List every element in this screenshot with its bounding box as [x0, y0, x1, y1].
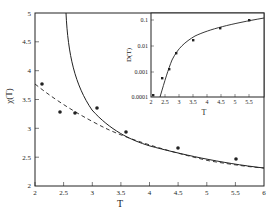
- chart: 2 2.5 3 3.5 4 4.5 5 5.5 6 T 2 2.5 3 3.5 …: [0, 0, 276, 212]
- svg-text:3: 3: [178, 99, 181, 105]
- svg-text:6: 6: [262, 189, 266, 197]
- svg-text:5: 5: [234, 99, 237, 105]
- svg-text:5: 5: [28, 10, 32, 18]
- svg-text:3.5: 3.5: [22, 96, 31, 104]
- svg-text:4.5: 4.5: [217, 99, 225, 105]
- svg-text:4: 4: [206, 99, 209, 105]
- svg-text:5: 5: [205, 189, 209, 197]
- inset-x-axis-label: T: [202, 108, 207, 117]
- svg-text:3: 3: [91, 189, 95, 197]
- inset-plot-frame: [151, 13, 264, 97]
- svg-text:4: 4: [148, 189, 152, 197]
- svg-text:0.01: 0.01: [138, 43, 149, 49]
- svg-text:0.0001: 0.0001: [132, 94, 149, 100]
- svg-text:5.5: 5.5: [245, 99, 253, 105]
- main-x-tick-labels: 2 2.5 3 3.5 4 4.5 5 5.5 6: [33, 189, 266, 197]
- main-x-ticks: [35, 182, 235, 186]
- svg-text:2: 2: [28, 182, 32, 190]
- inset-y-axis-label: D(T): [125, 47, 133, 62]
- svg-text:5.5: 5.5: [231, 189, 240, 197]
- main-x-axis-label: T: [117, 198, 123, 209]
- svg-text:2: 2: [33, 189, 37, 197]
- svg-text:4.5: 4.5: [174, 189, 183, 197]
- svg-text:4.5: 4.5: [22, 38, 31, 46]
- svg-text:3.5: 3.5: [117, 189, 126, 197]
- svg-text:0.1: 0.1: [141, 17, 149, 23]
- svg-text:3.5: 3.5: [189, 99, 197, 105]
- svg-text:0.001: 0.001: [135, 69, 149, 75]
- svg-text:2.5: 2.5: [59, 189, 68, 197]
- svg-text:2: 2: [150, 99, 153, 105]
- svg-text:3: 3: [28, 125, 32, 133]
- svg-text:2.5: 2.5: [22, 154, 31, 162]
- main-y-tick-labels: 2 2.5 3 3.5 4 4.5 5: [22, 10, 31, 191]
- main-y-axis-label: χ(T): [4, 88, 14, 105]
- inset-x-tick-labels: 2 2.5 3 3.5 4 4.5 5 5.5: [150, 99, 253, 105]
- main-y-ticks: [35, 42, 39, 157]
- svg-text:4: 4: [28, 67, 32, 75]
- svg-text:2.5: 2.5: [161, 99, 169, 105]
- inset-y-tick-labels: 0.0001 0.001 0.01 0.1: [132, 17, 149, 100]
